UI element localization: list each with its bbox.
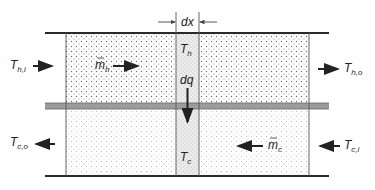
cold-outlet-temp-label: Tc,o — [10, 135, 29, 151]
dq-label: dq — [180, 73, 194, 87]
hot-inlet-temp-label: Th,i — [10, 58, 26, 74]
dx-label: dx — [181, 15, 195, 29]
heat-exchanger-diagram: dx Th dq Tc Th,i mh Th,o Tc,o mc Tc,i — [0, 0, 375, 190]
hot-outlet-temp-label: Th,o — [344, 61, 363, 77]
cold-inlet-temp-label: Tc,i — [344, 138, 360, 154]
